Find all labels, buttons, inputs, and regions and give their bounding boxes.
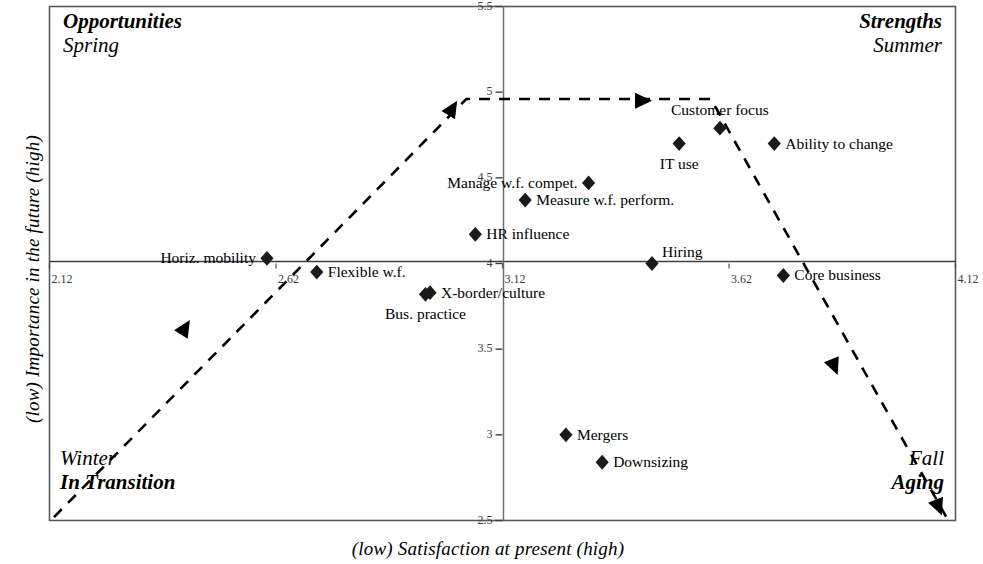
y-axis-title: (low) Importance in the future (high)	[22, 49, 44, 509]
data-point-marker	[469, 227, 482, 242]
y-axis-tick-label: 3.5	[478, 341, 493, 356]
diamond-marker	[596, 455, 609, 470]
point-label: X-border/culture	[441, 285, 545, 301]
diamond-marker	[469, 227, 482, 242]
y-axis-tick-label: 2.5	[478, 513, 493, 528]
data-point-marker	[645, 256, 658, 271]
point-label: Mergers	[577, 427, 628, 443]
diamond-marker	[559, 427, 572, 442]
y-axis-tick-label: 5.5	[478, 0, 493, 14]
quadrant-label-opportunities: Opportunities Spring	[63, 10, 182, 57]
point-label: HR influence	[486, 226, 569, 242]
point-label: Horiz. mobility	[160, 250, 256, 266]
quadrant-title-aging: Aging	[891, 471, 944, 495]
data-point-marker	[559, 427, 572, 442]
arrowhead-triangle	[824, 356, 845, 378]
data-point-marker	[713, 121, 726, 136]
data-point-marker	[582, 176, 595, 191]
quadrant-season-fall: Fall	[891, 447, 944, 471]
quadrant-season-summer: Summer	[859, 34, 942, 58]
diamond-marker	[768, 136, 781, 151]
quadrant-season-winter: Winter	[60, 447, 175, 471]
quadrant-title-strengths: Strengths	[859, 10, 942, 34]
x-axis-tick-label: 3.12	[505, 272, 526, 287]
data-point-marker	[260, 251, 273, 266]
point-label: Measure w.f. perform.	[536, 192, 674, 208]
diamond-marker	[777, 268, 790, 283]
quadrant-label-strengths: Strengths Summer	[859, 10, 942, 57]
point-label: IT use	[191, 156, 983, 172]
diamond-marker	[673, 136, 686, 151]
point-label: Hiring	[662, 244, 702, 260]
y-axis-tick-label: 4.5	[478, 170, 493, 185]
data-point-marker	[310, 265, 323, 280]
point-label: Core business	[794, 267, 881, 283]
point-label: Bus. practice	[0, 306, 914, 322]
quadrant-label-aging: Fall Aging	[891, 447, 944, 494]
data-point-marker	[673, 136, 686, 151]
x-axis-tick-label: 3.62	[731, 272, 752, 287]
point-label: Flexible w.f.	[328, 264, 406, 280]
lifecycle-arrowhead-4	[824, 356, 845, 378]
y-axis-tick-label: 5	[487, 84, 493, 99]
y-axis-tick-label: 3	[487, 427, 493, 442]
diamond-marker	[260, 251, 273, 266]
diamond-marker	[645, 256, 658, 271]
diamond-marker	[519, 193, 532, 208]
point-label: Manage w.f. compet.	[447, 175, 577, 191]
point-label: Ability to change	[785, 136, 893, 152]
x-axis-tick-label: 4.12	[958, 272, 979, 287]
diamond-marker	[582, 176, 595, 191]
data-point-marker	[519, 193, 532, 208]
x-axis-tick-label: 2.12	[52, 272, 73, 287]
y-axis-tick-label: 4	[487, 256, 493, 271]
x-axis-tick-label: 2.62	[278, 272, 299, 287]
diamond-marker	[713, 121, 726, 136]
quadrant-title-opportunities: Opportunities	[63, 10, 182, 34]
data-point-marker	[777, 268, 790, 283]
data-point-marker	[768, 136, 781, 151]
point-label: Customer focus	[232, 102, 983, 118]
quadrant-label-in-transition: Winter In Transition	[60, 447, 175, 494]
quadrant-season-spring: Spring	[63, 34, 182, 58]
point-label: Downsizing	[613, 454, 688, 470]
data-point-marker	[596, 455, 609, 470]
quadrant-title-in-transition: In Transition	[60, 471, 175, 495]
x-axis-title: (low) Satisfaction at present (high)	[0, 538, 976, 560]
diamond-marker	[310, 265, 323, 280]
